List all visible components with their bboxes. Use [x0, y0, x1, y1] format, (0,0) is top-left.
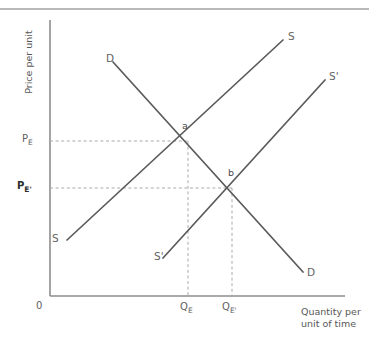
supply-curve-top-label: S [288, 30, 295, 43]
x-axis-title: Quantity per unit of time [301, 306, 367, 330]
supply-demand-figure: Price per unit Quantity per unit of time… [0, 0, 369, 351]
quantity-equilibrium-base: Q [180, 301, 188, 312]
x-axis-title-line2: unit of time [301, 318, 356, 329]
chart-canvas [0, 0, 369, 351]
quantity-equilibrium-label: QE [180, 301, 193, 316]
y-axis-title: Price per unit [23, 16, 35, 108]
supply-curve [67, 40, 283, 240]
quantity-equilibrium-sub: E [188, 306, 193, 315]
price-equilibrium-sub: E [28, 138, 33, 147]
price-equilibrium-new-sub: E' [24, 185, 31, 194]
equilibrium-point-a-label: a [182, 120, 188, 132]
price-equilibrium-new-label: PE' [17, 180, 32, 195]
x-axis-title-line1: Quantity per [301, 306, 361, 317]
demand-curve [113, 62, 303, 272]
price-equilibrium-label: PE [22, 133, 33, 148]
demand-curve-bottom-label: D [307, 266, 315, 279]
quantity-equilibrium-new-label: QE' [222, 301, 237, 316]
supply-shifted-curve [163, 80, 325, 258]
supply-curve-bottom-label: S [52, 232, 59, 245]
quantity-equilibrium-new-sub: E' [230, 306, 237, 315]
supply-shifted-curve-bottom-label: S' [154, 250, 164, 263]
demand-curve-top-label: D [106, 52, 114, 65]
quantity-equilibrium-new-base: Q [222, 301, 230, 312]
equilibrium-point-b-label: b [228, 167, 234, 179]
supply-shifted-curve-top-label: S' [329, 70, 339, 83]
origin-label: 0 [36, 300, 42, 313]
